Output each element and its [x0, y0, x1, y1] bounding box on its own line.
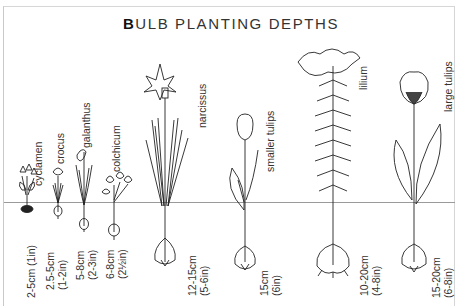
plant-label-colchicum: colchicum — [110, 125, 122, 172]
depth-in: (6in) — [270, 270, 282, 296]
plant-label-large-tulips: large tulips — [442, 61, 454, 112]
depth-in: (2-3in) — [86, 250, 98, 280]
depth-label-galanthus: 5-8cm(2-3in) — [74, 250, 98, 280]
depth-cm: 15cm — [258, 270, 270, 296]
colchicum-illustration — [102, 172, 132, 240]
depth-label-smaller-tulips: 15cm(6in) — [258, 270, 282, 296]
depth-label-narcissus: 12-15cm(5-6in) — [186, 255, 210, 296]
depth-in: (2½in) — [116, 249, 128, 279]
depth-cm: 2.5-5cm — [44, 252, 56, 290]
depth-label-colchicum: 6-8cm(2½in) — [104, 249, 128, 279]
depth-in: (4-8in) — [370, 255, 382, 296]
crocus-illustration — [53, 168, 63, 219]
plant-label-smaller-tulips: smaller tulips — [264, 111, 276, 172]
depth-label-large-tulips: 15-20cm(6-8in) — [430, 257, 454, 298]
depth-in: (6-8in) — [442, 257, 454, 298]
depth-in: (1-2in) — [56, 252, 68, 290]
plant-label-cyclamen: cyclamen — [32, 142, 44, 186]
depth-in: (5-6in) — [198, 255, 210, 296]
smaller-tulips-illustration — [230, 114, 258, 270]
large-tulips-illustration — [394, 72, 441, 272]
plant-label-galanthus: galanthus — [80, 102, 92, 148]
lilium-illustration — [298, 49, 360, 278]
depth-cm: 10-20cm — [358, 255, 370, 296]
depth-cm: 6-8cm — [104, 249, 116, 279]
depth-cm: 2-5cm (1in) — [25, 245, 37, 298]
depth-label-crocus: 2.5-5cm(1-2in) — [44, 252, 68, 290]
depth-label-cyclamen: 2-5cm (1in) — [25, 245, 37, 298]
plant-label-lilium: lilium — [357, 66, 369, 90]
plant-label-crocus: crocus — [54, 133, 66, 164]
narcissus-illustration — [144, 64, 188, 266]
depth-cm: 5-8cm — [74, 250, 86, 280]
galanthus-illustration — [76, 150, 92, 232]
depth-cm: 12-15cm — [186, 255, 198, 296]
plant-illustrations — [0, 0, 462, 306]
plant-label-narcissus: narcissus — [196, 84, 208, 128]
depth-label-lilium: 10-20cm(4-8in) — [358, 255, 382, 296]
depth-cm: 15-20cm — [430, 257, 442, 298]
